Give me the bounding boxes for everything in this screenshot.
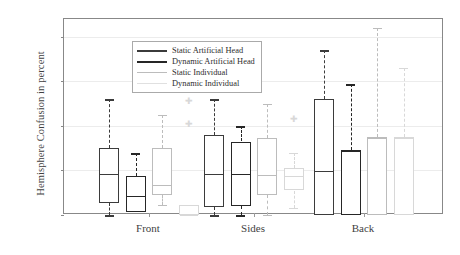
legend-label: Static Individual bbox=[172, 68, 228, 77]
whisker-upper bbox=[241, 126, 242, 142]
box-sides-series3 bbox=[284, 168, 304, 190]
plot-area: ✚✚✚✚✚ Static Artificial Head Dynamic Art… bbox=[63, 18, 443, 214]
median-line bbox=[180, 215, 198, 216]
whisker-upper bbox=[294, 153, 295, 169]
box-back-series3 bbox=[394, 137, 414, 215]
whisker-cap-upper bbox=[210, 99, 219, 101]
whisker-upper bbox=[162, 115, 163, 148]
legend-swatch-line bbox=[137, 50, 167, 52]
legend-swatch-line bbox=[137, 61, 167, 63]
x-axis-label-sides: Sides bbox=[241, 222, 265, 234]
whisker-cap-upper bbox=[346, 84, 355, 86]
whisker-cap-lower bbox=[158, 205, 167, 206]
whisker-cap-lower bbox=[263, 215, 272, 216]
outlier-marker: ✚ bbox=[185, 97, 193, 106]
x-axis-label-front: Front bbox=[136, 222, 160, 234]
whisker-cap-lower bbox=[236, 215, 245, 217]
whisker-lower bbox=[294, 191, 295, 209]
whisker-upper bbox=[377, 28, 378, 137]
whisker-upper bbox=[109, 99, 110, 148]
legend-label: Static Artificial Head bbox=[172, 46, 243, 55]
whisker-cap-upper bbox=[131, 153, 140, 155]
legend-item-dynamic-artificial-head: Dynamic Artificial Head bbox=[137, 56, 255, 67]
box-front-series1 bbox=[126, 176, 146, 212]
y-axis-label: Hemisphere Confusion in percent bbox=[35, 24, 46, 224]
legend-item-static-individual: Static Individual bbox=[137, 67, 255, 78]
box-sides-series0 bbox=[204, 135, 224, 207]
y-axis-tick-mark bbox=[61, 215, 64, 216]
median-line bbox=[315, 171, 333, 172]
whisker-cap-upper bbox=[289, 153, 298, 154]
median-line bbox=[285, 176, 303, 177]
legend-item-static-artificial-head: Static Artificial Head bbox=[137, 45, 255, 56]
x-axis-label-back: Back bbox=[352, 222, 375, 234]
box-front-series0 bbox=[99, 148, 119, 203]
y-axis-tick-mark bbox=[61, 170, 64, 171]
legend: Static Artificial Head Dynamic Artificia… bbox=[132, 41, 262, 93]
whisker-lower bbox=[162, 195, 163, 205]
box-back-series1 bbox=[341, 150, 361, 215]
whisker-upper bbox=[267, 104, 268, 139]
whisker-cap-lower bbox=[210, 215, 219, 217]
legend-label: Dynamic Individual bbox=[172, 79, 239, 88]
box-back-series0 bbox=[314, 99, 334, 215]
y-axis-tick-mark bbox=[61, 37, 64, 38]
whisker-upper bbox=[136, 153, 137, 176]
whisker-cap-upper bbox=[373, 28, 382, 29]
y-axis-tick-mark bbox=[61, 126, 64, 127]
whisker-lower bbox=[241, 206, 242, 215]
box-back-series2 bbox=[367, 137, 387, 215]
gridline bbox=[64, 37, 442, 38]
whisker-cap-upper bbox=[320, 50, 329, 52]
box-plot-chart: Hemisphere Confusion in percent ✚✚✚✚✚ St… bbox=[0, 0, 460, 255]
median-line bbox=[100, 174, 118, 175]
x-axis-tick-mark bbox=[149, 213, 150, 217]
median-line bbox=[153, 185, 171, 186]
box-front-series2 bbox=[152, 148, 172, 195]
whisker-cap-lower bbox=[105, 215, 114, 217]
legend-swatch-line bbox=[137, 72, 167, 73]
median-line bbox=[342, 151, 360, 152]
y-axis-tick-mark bbox=[61, 81, 64, 82]
legend-label: Dynamic Artificial Head bbox=[172, 57, 255, 66]
box-front-series3 bbox=[179, 205, 199, 215]
legend-item-dynamic-individual: Dynamic Individual bbox=[137, 78, 255, 89]
whisker-lower bbox=[267, 195, 268, 215]
median-line bbox=[127, 196, 145, 197]
median-line bbox=[258, 175, 276, 176]
x-axis-tick-mark bbox=[254, 213, 255, 217]
whisker-cap-lower bbox=[289, 208, 298, 209]
legend-swatch-line bbox=[137, 83, 167, 84]
whisker-lower bbox=[214, 207, 215, 215]
whisker-cap-upper bbox=[399, 68, 408, 69]
x-axis-tick-mark bbox=[364, 213, 365, 217]
whisker-upper bbox=[324, 50, 325, 99]
box-sides-series2 bbox=[257, 138, 277, 195]
box-sides-series1 bbox=[231, 142, 251, 207]
median-line bbox=[368, 138, 386, 139]
whisker-cap-upper bbox=[236, 126, 245, 128]
whisker-upper bbox=[214, 99, 215, 135]
median-line bbox=[205, 174, 223, 175]
median-line bbox=[395, 138, 413, 139]
outlier-marker: ✚ bbox=[290, 115, 298, 124]
whisker-upper bbox=[404, 68, 405, 137]
whisker-cap-upper bbox=[105, 99, 114, 101]
whisker-upper bbox=[351, 84, 352, 151]
outlier-marker: ✚ bbox=[185, 119, 193, 128]
whisker-cap-upper bbox=[263, 104, 272, 105]
median-line bbox=[232, 174, 250, 175]
gridline bbox=[64, 126, 442, 127]
whisker-lower bbox=[109, 203, 110, 215]
whisker-cap-upper bbox=[158, 115, 167, 116]
